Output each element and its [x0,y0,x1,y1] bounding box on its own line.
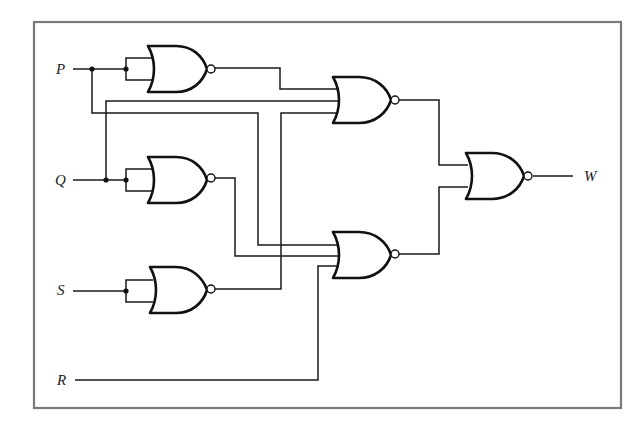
nor-gate-g6 [466,153,532,199]
junction-dot [123,66,128,71]
input-label-q: Q [55,172,66,188]
nor-gate-g1 [148,46,215,92]
junction-dot [89,66,94,71]
output-label-w: W [584,168,598,184]
input-label-s: S [57,282,65,298]
input-label-p: P [55,61,65,77]
junction-dot [123,177,128,182]
wire-g4-g6 [399,100,468,165]
input-label-r: R [56,372,66,388]
logic-circuit-diagram: P Q S R W [0,0,642,427]
nor-gate-g2 [148,157,215,203]
junction-dot [103,177,108,182]
wire-g1-g4 [214,68,337,89]
junction-dot [123,288,128,293]
figure-frame [34,22,621,408]
wire-s [73,280,153,302]
nor-gate-g5 [333,232,399,278]
nor-gate-g4 [333,77,399,123]
wire-r [75,266,337,380]
wire-g3-g4 [214,113,337,289]
nor-gate-g3 [150,267,215,313]
wire-p [73,58,337,245]
wire-g5-g6 [399,187,468,254]
